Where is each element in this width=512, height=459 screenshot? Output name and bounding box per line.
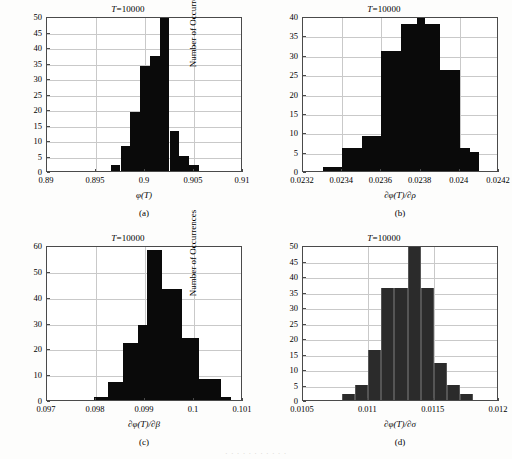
panel-a-plot-area (46, 17, 242, 172)
histogram-bar (368, 350, 381, 400)
x-tick-label: 0.101 (232, 404, 251, 414)
x-tick-label: 0.91 (235, 175, 250, 185)
x-tick-label: 0.0236 (369, 175, 392, 185)
y-tick-mark (303, 339, 306, 340)
y-tick-mark (47, 110, 50, 111)
panel-b-ylabel: Number of Occurrences (188, 0, 202, 102)
y-tick-mark (47, 64, 50, 65)
panel-c-bars (47, 247, 241, 400)
histogram-bar (179, 156, 189, 172)
y-tick-label: 30 (270, 303, 298, 313)
x-tick-mark (193, 398, 194, 401)
panel-d-xlabel: ∂φ(T)/∂σ (302, 419, 498, 429)
panel-a-bars (47, 18, 241, 171)
histogram-bar (470, 152, 480, 171)
x-tick-label: 0.097 (36, 404, 55, 414)
y-tick-mark (47, 246, 50, 247)
y-tick-label: 45 (14, 28, 42, 38)
y-tick-mark (303, 153, 306, 154)
x-tick-label: 0.89 (39, 175, 54, 185)
panel-a-caption: (a) (46, 208, 242, 218)
x-tick-label: 0.0115 (421, 404, 444, 414)
histogram-bar (421, 288, 434, 400)
y-tick-label: 45 (270, 257, 298, 267)
y-tick-label: 35 (270, 288, 298, 298)
y-tick-label: 25 (270, 70, 298, 80)
y-tick-mark (47, 48, 50, 49)
y-tick-label: 5 (270, 148, 298, 158)
x-tick-mark (242, 169, 243, 172)
panel-b-bars (303, 18, 497, 171)
histogram-bar (111, 165, 121, 171)
y-tick-mark (303, 308, 306, 309)
x-tick-mark (302, 169, 303, 172)
y-tick-mark (303, 293, 306, 294)
y-tick-mark (47, 172, 50, 173)
x-tick-mark (380, 169, 381, 172)
panel-b: T=10000 Number of Occurrences 0510152025… (256, 0, 512, 229)
x-tick-label: 0.0232 (290, 175, 313, 185)
y-tick-label: 10 (14, 136, 42, 146)
panel-a: T=10000 Number of Occurrences 0510152025… (0, 0, 256, 229)
y-tick-label: 15 (14, 121, 42, 131)
y-tick-mark (47, 95, 50, 96)
x-tick-label: 0.0105 (290, 404, 313, 414)
x-tick-mark (302, 398, 303, 401)
y-tick-label: 10 (14, 370, 42, 380)
x-tick-label: 0.0242 (486, 175, 509, 185)
y-tick-mark (47, 375, 50, 376)
histogram-bar (394, 288, 407, 400)
x-tick-mark (46, 398, 47, 401)
y-tick-mark (303, 56, 306, 57)
histogram-bar (417, 17, 425, 171)
y-tick-label: 40 (14, 293, 42, 303)
x-tick-mark (341, 169, 342, 172)
x-tick-mark (367, 398, 368, 401)
panel-d-bars (303, 247, 497, 400)
y-tick-mark (47, 79, 50, 80)
y-tick-mark (47, 126, 50, 127)
histogram-bar (342, 394, 355, 400)
y-tick-label: 50 (270, 241, 298, 251)
y-tick-mark (47, 401, 50, 402)
y-tick-label: 10 (270, 365, 298, 375)
y-tick-label: 40 (14, 43, 42, 53)
x-tick-mark (498, 169, 499, 172)
histogram-bar (425, 24, 441, 171)
y-tick-mark (303, 262, 306, 263)
panel-b-xlabel: ∂φ(T)/∂ρ (302, 190, 498, 200)
y-tick-label: 20 (270, 334, 298, 344)
y-tick-label: 5 (270, 381, 298, 391)
x-tick-label: 0.012 (488, 404, 507, 414)
x-tick-label: 0.099 (134, 404, 153, 414)
y-tick-mark (47, 349, 50, 350)
x-tick-mark (144, 169, 145, 172)
y-tick-mark (303, 114, 306, 115)
x-tick-mark (95, 169, 96, 172)
panel-b-caption: (b) (302, 208, 498, 218)
histogram-bar (199, 379, 221, 400)
y-tick-label: 20 (270, 90, 298, 100)
page-bleed-through: · · · · · · · · · · · (0, 449, 512, 458)
panel-b-plot-area (302, 17, 498, 172)
y-tick-mark (303, 36, 306, 37)
y-tick-label: 30 (270, 51, 298, 61)
x-tick-mark (433, 398, 434, 401)
histogram-bar (150, 56, 160, 171)
y-tick-label: 35 (270, 31, 298, 41)
histogram-bar (460, 148, 470, 171)
y-tick-label: 20 (14, 344, 42, 354)
panel-d-ylabel: Number of Occurrences (188, 176, 202, 331)
x-tick-label: 0.0238 (408, 175, 431, 185)
y-tick-mark (47, 272, 50, 273)
x-tick-label: 0.024 (449, 175, 468, 185)
y-tick-mark (303, 246, 306, 247)
histogram-bar (401, 24, 417, 171)
y-tick-mark (303, 75, 306, 76)
histogram-bar (108, 382, 123, 400)
y-tick-label: 10 (270, 128, 298, 138)
histogram-bar (440, 70, 460, 171)
x-tick-label: 0.9 (139, 175, 150, 185)
histogram-bar (447, 385, 460, 401)
y-tick-mark (303, 386, 306, 387)
